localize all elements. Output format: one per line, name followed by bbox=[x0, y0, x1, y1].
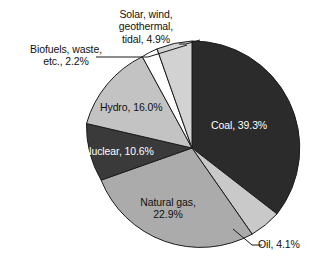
slice-label-biofuels-line2: etc., 2.2% bbox=[8, 55, 124, 67]
slice-label-biofuels-line1: Biofuels, waste, bbox=[8, 43, 124, 55]
slice-label-coal: Coal, 39.3% bbox=[211, 119, 301, 131]
slice-label-solar-line2: geothermal, bbox=[94, 20, 198, 32]
slice-label-biofuels: Biofuels, waste, etc., 2.2% bbox=[8, 43, 124, 68]
slice-label-solar-line1: Solar, wind, bbox=[94, 8, 198, 20]
slice-label-hydro-text: Hydro, 16.0% bbox=[100, 101, 192, 113]
slice-label-nuclear-text: Nuclear, 10.6% bbox=[84, 145, 182, 157]
slice-label-natural-gas-line1: Natural gas, bbox=[125, 196, 211, 208]
slice-label-solar: Solar, wind, geothermal, tidal, 4.9% bbox=[94, 8, 198, 45]
slice-label-hydro: Hydro, 16.0% bbox=[100, 101, 192, 113]
slice-label-natural-gas: Natural gas, 22.9% bbox=[125, 196, 211, 221]
slice-label-oil: Oil, 4.1% bbox=[258, 238, 318, 250]
slice-label-oil-text: Oil, 4.1% bbox=[258, 238, 318, 250]
slice-label-natural-gas-line2: 22.9% bbox=[125, 208, 211, 220]
slice-label-nuclear: Nuclear, 10.6% bbox=[84, 145, 182, 157]
pie-chart: Solar, wind, geothermal, tidal, 4.9% Bio… bbox=[0, 0, 322, 269]
slice-label-coal-text: Coal, 39.3% bbox=[211, 119, 301, 131]
